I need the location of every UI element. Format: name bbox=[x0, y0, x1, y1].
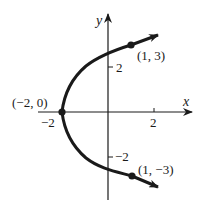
point-label-bottom: (1, −3) bbox=[138, 162, 174, 177]
y-tick-label-pos2: 2 bbox=[116, 60, 123, 75]
y-tick-label-neg2: −2 bbox=[115, 149, 129, 164]
point-label-vertex: (−2, 0) bbox=[12, 95, 48, 110]
y-axis-label: y bbox=[94, 13, 103, 28]
x-tick-label-neg2: −2 bbox=[41, 115, 55, 130]
point-label-top: (1, 3) bbox=[137, 48, 165, 63]
parabola-upper-branch bbox=[62, 35, 158, 112]
x-tick-label-pos2: 2 bbox=[150, 115, 157, 130]
x-axis-label: x bbox=[182, 94, 190, 109]
point-bottom bbox=[128, 172, 135, 179]
point-vertex bbox=[58, 108, 65, 115]
parabola-plot: y x −2 2 2 −2 (1, 3) (−2, 0) (1, −3) bbox=[0, 0, 201, 209]
point-top bbox=[127, 41, 134, 48]
